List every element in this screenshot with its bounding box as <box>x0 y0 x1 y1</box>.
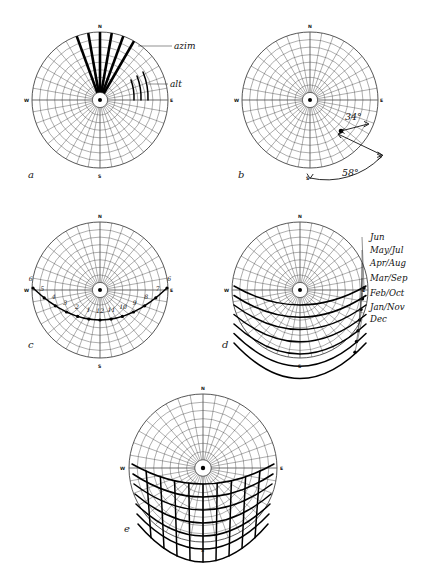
panel-e-cardinal-e: E <box>280 466 283 471</box>
panel-a-cardinal-s: S <box>98 174 101 179</box>
panel-e-hour-line <box>146 471 151 537</box>
panel-e-cardinal-s: S <box>201 548 204 553</box>
panel-d-zenith-dot <box>298 288 302 292</box>
sun-path-figure: azim alt N E S W a <box>0 0 422 566</box>
panel-e-cardinal-n: N <box>201 386 205 391</box>
panel-d-month-label: Mar/Sep <box>369 273 408 283</box>
panel-c-hour-label: 12 <box>96 307 104 314</box>
panel-b-zenith-dot <box>308 98 312 102</box>
panel-b-cardinal-e: E <box>380 98 383 103</box>
panel-c-hour-label: 7 <box>156 285 160 292</box>
panel-c-hour-label: 2 <box>74 303 79 310</box>
panel-d-month-label: Apr/Aug <box>369 258 406 268</box>
panel-d-month-label: Dec <box>369 314 387 324</box>
panel-c-hour-label: 6 <box>167 275 171 282</box>
panel-d-cardinal-w: W <box>224 288 229 293</box>
panel-b-cardinal-n: N <box>308 24 312 29</box>
panel-a-zenith-dot <box>98 98 102 102</box>
panel-d-month-label: May/Jul <box>369 245 404 255</box>
panel-e-hour-line <box>189 483 190 560</box>
panel-c-letter: c <box>28 339 34 350</box>
panel-d-month-label: Jan/Nov <box>368 302 405 312</box>
panel-c-hour-label: 6 <box>29 275 33 282</box>
panel-a-cardinal-e: E <box>170 98 173 103</box>
panel-a-altitude-arcs <box>131 72 148 100</box>
panel-b: 34° 58° N E S W b <box>234 24 383 181</box>
panel-d: JunMay/JulApr/AugMar/SepFeb/OctJan/NovDe… <box>222 214 408 379</box>
panel-c-hour-label: 8 <box>144 293 148 300</box>
panel-c-cardinal-n: N <box>98 214 102 219</box>
panel-a-azimuth-wedges <box>77 32 134 100</box>
panel-d-cardinal-s: S <box>298 364 301 369</box>
panel-c-cardinal-w: W <box>24 288 29 293</box>
panel-c-hour-label: 9 <box>133 299 137 306</box>
azim-label: azim <box>174 41 196 51</box>
panel-c: 6543211211109876 N E S W c <box>24 214 173 369</box>
panel-c-hour-label: 1 <box>86 306 90 313</box>
panel-d-cardinal-e: E <box>362 288 365 293</box>
panel-e-zenith-dot <box>201 466 205 470</box>
panel-b-letter: b <box>238 169 244 180</box>
panel-b-altitude-value: 34° <box>345 111 362 122</box>
panel-c-cardinal-e: E <box>170 288 173 293</box>
panel-d-month-labels: JunMay/JulApr/AugMar/SepFeb/OctJan/NovDe… <box>368 232 408 324</box>
panel-e-cardinal-w: W <box>120 466 125 471</box>
panel-d-letter: d <box>222 339 228 350</box>
panel-a-cardinal-w: W <box>24 98 29 103</box>
panel-a: azim alt N E S W a <box>24 24 196 180</box>
panel-c-hour-label: 4 <box>51 293 56 300</box>
panel-c-hour-label: 11 <box>108 306 116 313</box>
panel-a-cardinal-n: N <box>98 24 102 29</box>
panel-c-hour-label: 5 <box>40 285 44 292</box>
panel-c-hour-label: 3 <box>63 299 67 306</box>
panel-e: N E S W e <box>120 386 283 562</box>
panel-c-hour-label: 10 <box>119 303 127 310</box>
panel-e-hour-line <box>255 471 260 537</box>
panel-b-cardinal-w: W <box>234 98 239 103</box>
alt-label: alt <box>170 79 182 89</box>
panel-d-leader-lines <box>355 237 364 352</box>
panel-d-month-label: Jun <box>368 232 385 242</box>
panel-a-letter: a <box>28 169 34 180</box>
panel-c-zenith-dot <box>98 288 102 292</box>
panel-e-hour-line <box>216 483 217 560</box>
panel-e-letter: e <box>124 523 130 534</box>
panel-b-cardinal-s: S <box>306 176 309 181</box>
panel-d-month-label: Feb/Oct <box>369 288 405 298</box>
panel-b-azimuth-value: 58° <box>342 167 359 178</box>
panel-d-cardinal-n: N <box>298 214 302 219</box>
panel-c-cardinal-s: S <box>98 364 101 369</box>
